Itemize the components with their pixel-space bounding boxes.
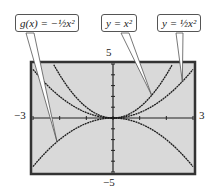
tick-xmax: 3 [199,109,205,121]
tick-ymax: 5 [106,46,112,58]
label-y-x2: y = x² [101,14,137,32]
tick-ymin: −5 [103,176,115,188]
tick-xmin: −3 [14,109,26,121]
label-y-half-x2: y = ½x² [157,14,201,32]
label-g: g(x) = −½x² [15,14,79,32]
